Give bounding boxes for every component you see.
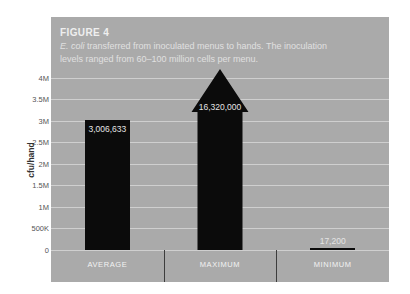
category-divider: [276, 250, 277, 282]
value-label-minimum: 17,200: [320, 236, 346, 246]
value-label-maximum: 16,320,000: [199, 102, 242, 112]
category-label-average: AVERAGE: [87, 260, 127, 269]
value-label-average: 3,006,633: [88, 124, 126, 134]
category-divider: [164, 250, 165, 282]
category-label-maximum: MAXIMUM: [200, 260, 240, 269]
category-label-minimum: MINIMUM: [314, 260, 352, 269]
bar-minimum: [310, 248, 355, 250]
